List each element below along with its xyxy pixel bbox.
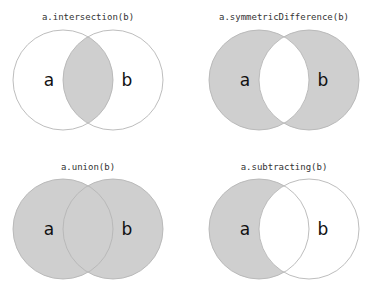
set-b-label: b	[122, 219, 133, 239]
set-a-label: a	[44, 219, 54, 239]
diagram-title: a.intersection(b)	[42, 12, 134, 22]
set-a-label: a	[44, 70, 54, 90]
diagram-title: a.union(b)	[61, 162, 115, 172]
set-b-label: b	[318, 70, 329, 90]
diagram-title: a.subtracting(b)	[241, 162, 328, 172]
set-b-label: b	[122, 70, 133, 90]
diagram-subtracting: a.subtracting(b) a b	[209, 162, 359, 279]
diagram-intersection: a.intersection(b) a b	[13, 12, 163, 130]
venn-diagrams: a.intersection(b) a b a.symmetricDiffere…	[0, 0, 372, 295]
diagram-title: a.symmetricDifference(b)	[219, 12, 349, 22]
set-b-label: b	[318, 219, 329, 239]
diagram-union: a.union(b) a b	[13, 162, 163, 279]
diagram-symmetric-difference: a.symmetricDifference(b) a b	[209, 12, 359, 130]
set-a-label: a	[240, 70, 250, 90]
set-a-label: a	[240, 219, 250, 239]
